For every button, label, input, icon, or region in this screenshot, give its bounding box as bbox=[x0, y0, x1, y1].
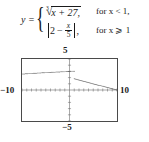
brace-icon: { bbox=[36, 2, 45, 32]
abs-lead-term: 2 bbox=[50, 26, 55, 36]
piecewise-function-figure: y = { 3 √ x + 27, for x < 1, bbox=[0, 0, 149, 142]
curve--2-x-5-x-1 bbox=[74, 78, 117, 90]
radicand: x + 27, bbox=[51, 6, 81, 18]
axis-label-right: 10 bbox=[120, 85, 129, 95]
plot-area bbox=[21, 58, 118, 122]
absolute-value-expression: 2 − x 5 , bbox=[46, 21, 79, 40]
condition-text: for x ⩾ 1 bbox=[96, 21, 130, 40]
fraction-numerator: x bbox=[66, 22, 71, 30]
cube-root-expression: 3 √ x + 27, bbox=[46, 2, 81, 21]
plot-svg bbox=[22, 59, 117, 121]
absolute-value-icon: 2 − x 5 , bbox=[46, 22, 79, 39]
equation-case-row: 2 − x 5 , for x ⩾ 1 bbox=[46, 21, 149, 40]
curve-cbrt-x-27-x-1 bbox=[22, 71, 75, 75]
equation-case-row: 3 √ x + 27, for x < 1, bbox=[46, 2, 149, 21]
fraction-denominator: 5 bbox=[65, 30, 73, 39]
equation-block: y = { 3 √ x + 27, for x < 1, bbox=[0, 0, 149, 45]
axis-label-top: 5 bbox=[63, 45, 68, 55]
radical-icon: 3 √ x + 27, bbox=[46, 6, 81, 18]
radical-index: 3 bbox=[46, 6, 49, 12]
abs-bar-left bbox=[48, 23, 49, 38]
equation-cases: 3 √ x + 27, for x < 1, 2 − x bbox=[46, 2, 149, 40]
fraction: x 5 bbox=[66, 22, 72, 39]
axis-label-bottom: −5 bbox=[62, 122, 72, 132]
abs-trailing-comma: , bbox=[76, 26, 79, 36]
condition-text: for x < 1, bbox=[96, 2, 130, 21]
minus-sign: − bbox=[57, 26, 63, 36]
equation-left-side: y = bbox=[21, 15, 35, 25]
abs-bar-right bbox=[74, 23, 75, 38]
graph-block: 5 −5 −10 10 bbox=[0, 44, 149, 142]
axis-label-left: −10 bbox=[0, 85, 14, 95]
